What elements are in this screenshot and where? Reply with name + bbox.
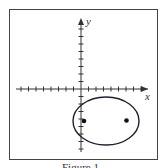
x-axis-label: x xyxy=(144,90,150,102)
figure-graph: y x xyxy=(0,0,161,168)
y-axis-arrow-icon xyxy=(78,18,84,25)
figure-frame xyxy=(10,10,158,160)
figure-caption: Figure 1 xyxy=(0,161,161,168)
y-axis-label: y xyxy=(85,15,91,27)
focus-point-right xyxy=(124,118,129,123)
focus-point-left xyxy=(82,119,87,124)
